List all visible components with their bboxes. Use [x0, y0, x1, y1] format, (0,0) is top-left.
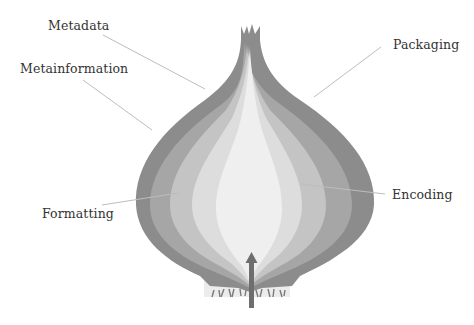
- label-formatting: Formatting: [42, 206, 114, 221]
- leader-line-metainformation: [83, 80, 152, 130]
- leader-line-packaging: [314, 47, 381, 97]
- onion-diagram: Metadata Metainformation Packaging Forma…: [0, 0, 474, 325]
- label-packaging: Packaging: [393, 37, 459, 52]
- label-metadata: Metadata: [48, 18, 109, 33]
- label-encoding: Encoding: [392, 187, 453, 202]
- label-metainformation: Metainformation: [20, 61, 128, 76]
